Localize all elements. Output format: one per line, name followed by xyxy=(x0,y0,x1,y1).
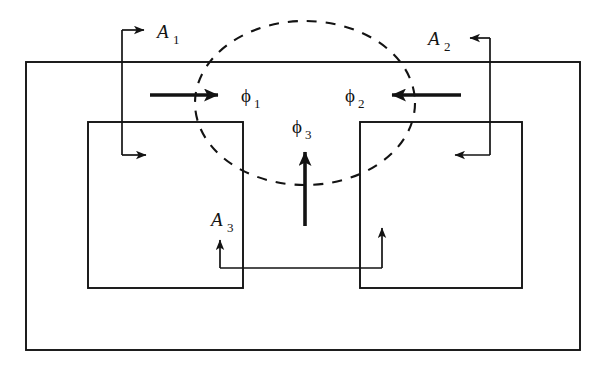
label-a1: A 1 xyxy=(155,21,180,47)
label-phi1-subscript: 1 xyxy=(254,96,261,111)
label-a2: A 2 xyxy=(426,28,451,54)
label-phi2: ϕ 2 xyxy=(345,85,365,111)
label-a2-symbol: A xyxy=(426,28,440,49)
label-phi1-symbol: ϕ xyxy=(241,85,251,106)
label-a3-subscript: 3 xyxy=(227,220,234,235)
label-phi2-subscript: 2 xyxy=(358,96,365,111)
label-phi3-symbol: ϕ xyxy=(292,116,302,137)
label-a2-subscript: 2 xyxy=(444,39,451,54)
figure-root: A 1 A 2 A 3 ϕ 1 ϕ 2 ϕ 3 xyxy=(0,0,604,370)
figure-canvas: A 1 A 2 A 3 ϕ 1 ϕ 2 ϕ 3 xyxy=(0,0,604,370)
label-a1-subscript: 1 xyxy=(173,32,180,47)
label-a1-symbol: A xyxy=(155,21,169,42)
label-a3: A 3 xyxy=(209,209,234,235)
label-phi3-subscript: 3 xyxy=(305,127,312,142)
outer-rectangle xyxy=(26,62,580,350)
label-phi3: ϕ 3 xyxy=(292,116,312,142)
label-a3-symbol: A xyxy=(209,209,223,230)
right-inner-box xyxy=(360,122,522,288)
label-phi2-symbol: ϕ xyxy=(345,85,355,106)
label-phi1: ϕ 1 xyxy=(241,85,261,111)
